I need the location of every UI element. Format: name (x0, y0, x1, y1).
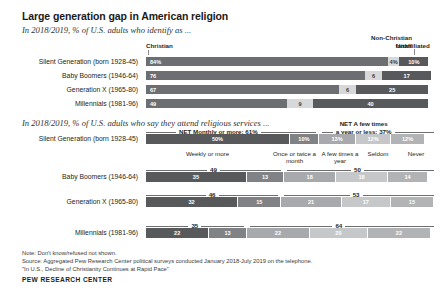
segment-value: 13% (319, 136, 355, 142)
chart1-bar-row: 49940 (146, 99, 434, 108)
segment-weekly-or-more: 35 (146, 172, 247, 182)
segment-value: 22 (146, 230, 208, 236)
segment-value: 15 (391, 199, 433, 205)
chart2-row-label: Baby Boomers (1946-64) (8, 173, 138, 181)
segment-once-or-twice-a-month: 15 (238, 197, 281, 207)
category-label-few-times-year: A few times a year (320, 150, 360, 164)
segment-value: 50% (146, 136, 289, 142)
tick-nonchristian (414, 49, 415, 55)
segment-value: 32 (146, 199, 237, 205)
chart1-bar-row: 67625 (146, 85, 434, 94)
segment-christian: 67 (146, 85, 339, 94)
segment-unaffiliated: 25 (356, 85, 428, 94)
segment-unaffiliated: 17 (382, 71, 431, 80)
segment-value: 25 (356, 87, 428, 93)
category-label-weekly: Weekly or more (150, 150, 265, 157)
chart1-row-label: Generation X (1965-80) (8, 86, 138, 94)
chart2-bar-row: 50%10%13%12%12% (146, 134, 434, 144)
chart2-row-label: Silent Generation (born 1928-45) (8, 135, 138, 143)
infographic-page: Large generation gap in American religio… (0, 0, 447, 292)
segment-value: 6 (365, 73, 382, 79)
chart1-bar-row: 84%4%10% (146, 57, 434, 66)
segment-value: 12% (391, 136, 425, 142)
segment-never: 22 (368, 228, 431, 238)
segment-never: 15 (391, 197, 434, 207)
chart1-bar-row: 76617 (146, 71, 434, 80)
chart1-row-label: Baby Boomers (1946-64) (8, 72, 138, 80)
footer-note: Note: Don't know/refused not shown. (22, 249, 117, 257)
segment-once-or-twice-a-month: 10% (290, 134, 319, 144)
segment-a-few-times-a-year: 13% (319, 134, 356, 144)
segment-nonchristian: 9 (287, 99, 313, 108)
net-label-right: NET A few timesa year or less: 37% (333, 120, 395, 135)
segment-value: 17 (342, 199, 390, 205)
chart1-subtitle: In 2018/2019, % of U.S. adults who ident… (22, 25, 191, 35)
segment-value: 67 (146, 87, 339, 93)
chart2-bar-row: 3215211715 (146, 197, 434, 207)
segment-value: 13 (247, 174, 283, 180)
segment-value: 18 (284, 174, 335, 180)
segment-value: 17 (382, 73, 431, 79)
brand-pew-research-center: PEW RESEARCH CENTER (22, 276, 112, 283)
segment-value: 13 (209, 230, 245, 236)
segment-value: 22 (247, 230, 309, 236)
category-label-never: Never (399, 150, 433, 157)
segment-christian: 76 (146, 71, 365, 80)
segment-value: 14 (388, 174, 427, 180)
segment-once-or-twice-a-month: 13 (209, 228, 246, 238)
chart2-bar-row: 2213222022 (146, 228, 434, 238)
chart2-subtitle: In 2018/2019, % of U.S. adults who say t… (22, 118, 269, 128)
segment-value: 76 (146, 73, 365, 79)
segment-never: 14 (388, 172, 428, 182)
segment-seldom: 12% (356, 134, 391, 144)
segment-weekly-or-more: 32 (146, 197, 238, 207)
segment-value: 10% (399, 59, 428, 65)
chart1-row-label: Silent Generation (born 1928-45) (8, 58, 138, 66)
footer-reference: "In U.S., Decline of Christianity Contin… (22, 265, 169, 273)
segment-value: 22 (368, 230, 430, 236)
column-header-christian: Christian (146, 42, 173, 50)
segment-a-few-times-a-year: 21 (281, 197, 341, 207)
page-title: Large generation gap in American religio… (22, 10, 228, 22)
segment-weekly-or-more: 22 (146, 228, 209, 238)
segment-a-few-times-a-year: 22 (247, 228, 310, 238)
segment-nonchristian: 6 (365, 71, 382, 80)
segment-christian: 49 (146, 99, 287, 108)
segment-seldom: 17 (342, 197, 391, 207)
segment-weekly-or-more: 50% (146, 134, 290, 144)
column-header-unaffiliated: Unaffiliated (396, 42, 430, 50)
chart2-bar-row: 3513181814 (146, 172, 434, 182)
segment-value: 18 (336, 174, 387, 180)
segment-christian: 84% (146, 57, 388, 66)
segment-value: 4% (388, 59, 400, 65)
category-label-seldom: Seldom (361, 150, 395, 157)
chart1-row-label: Millennials (1981-96) (8, 100, 138, 108)
segment-value: 35 (146, 174, 246, 180)
segment-value: 9 (287, 101, 313, 107)
chart2-row-label: Millennials (1981-96) (8, 229, 138, 237)
segment-never: 12% (391, 134, 426, 144)
segment-nonchristian: 6 (339, 85, 356, 94)
segment-value: 10% (290, 136, 318, 142)
segment-value: 15 (238, 199, 280, 205)
segment-value: 20 (310, 230, 367, 236)
tick-christian (148, 50, 149, 55)
segment-value: 6 (339, 87, 356, 93)
segment-a-few-times-a-year: 18 (284, 172, 336, 182)
segment-seldom: 20 (310, 228, 368, 238)
segment-seldom: 18 (336, 172, 388, 182)
segment-value: 84% (146, 59, 388, 65)
segment-value: 49 (146, 101, 287, 107)
segment-value: 40 (313, 101, 428, 107)
segment-once-or-twice-a-month: 13 (247, 172, 284, 182)
footer-source: Source: Aggregated Pew Research Center p… (22, 257, 312, 265)
chart2-row-label: Generation X (1965-80) (8, 198, 138, 206)
segment-unaffiliated: 10% (399, 57, 428, 66)
segment-unaffiliated: 40 (313, 99, 428, 108)
segment-value: 12% (356, 136, 390, 142)
segment-nonchristian: 4% (388, 57, 400, 66)
category-label-once-twice-month: Once or twice a month (272, 150, 317, 164)
segment-value: 21 (281, 199, 340, 205)
